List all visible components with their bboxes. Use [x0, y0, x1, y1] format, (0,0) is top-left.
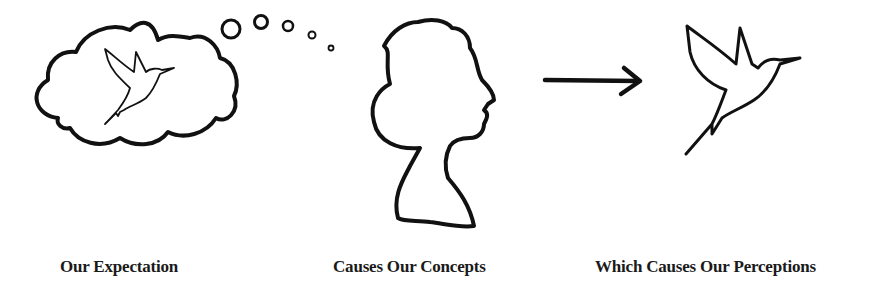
thought-bubble-icon: [283, 21, 293, 31]
thought-bubble-icon: [309, 32, 316, 39]
woman-silhouette-icon: [373, 20, 494, 227]
caption-causes-our-concepts: Causes Our Concepts: [333, 257, 486, 277]
diagram-artwork: [0, 0, 894, 297]
thought-bubble-icon: [255, 16, 268, 29]
thought-bubble-icon: [329, 46, 334, 51]
hummingbird-large-icon: [686, 26, 800, 154]
thought-cloud-icon: [37, 23, 237, 144]
caption-our-expectation: Our Expectation: [60, 257, 178, 277]
thought-bubble-icon: [222, 20, 240, 38]
diagram: Our Expectation Causes Our Concepts Whic…: [0, 0, 894, 297]
hummingbird-small-icon: [105, 49, 174, 124]
caption-which-causes-our-perceptions: Which Causes Our Perceptions: [595, 257, 816, 277]
right-arrow-icon: [545, 80, 638, 81]
